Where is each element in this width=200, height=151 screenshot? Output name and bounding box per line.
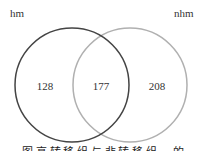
figure-caption: 图 高 转 移 组 与 非 转 移 组 … 的: [22, 143, 184, 151]
nhm-set-label: nhm: [174, 7, 194, 19]
nhm-circle: [73, 28, 187, 142]
hm-set-label: hm: [10, 7, 24, 19]
intersection-count: 177: [93, 80, 110, 92]
hm-circle: [15, 28, 129, 142]
venn-diagram: [0, 0, 200, 151]
hm-only-count: 128: [37, 80, 54, 92]
nhm-only-count: 208: [149, 80, 166, 92]
